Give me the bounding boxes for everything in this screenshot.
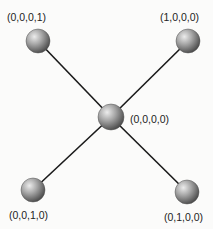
node-sphere-n1 (26, 29, 50, 53)
node-sphere-n0 (98, 104, 124, 130)
node-label-1000: (1,0,0,0) (160, 11, 199, 23)
edge-n0-n2 (111, 41, 188, 117)
edge-n0-n4 (111, 117, 187, 192)
node-label-0001: (0,0,0,1) (7, 11, 46, 23)
edge-n0-n1 (38, 41, 111, 117)
edge-n0-n3 (33, 117, 111, 190)
star-graph-diagram (0, 0, 213, 229)
node-sphere-n2 (176, 29, 200, 53)
node-sphere-n3 (21, 178, 45, 202)
node-sphere-n4 (175, 180, 199, 204)
node-label-0100: (0,1,0,0) (164, 211, 203, 223)
node-label-0000-center: (0,0,0,0) (130, 113, 169, 125)
node-label-0010: (0,0,1,0) (9, 209, 48, 221)
